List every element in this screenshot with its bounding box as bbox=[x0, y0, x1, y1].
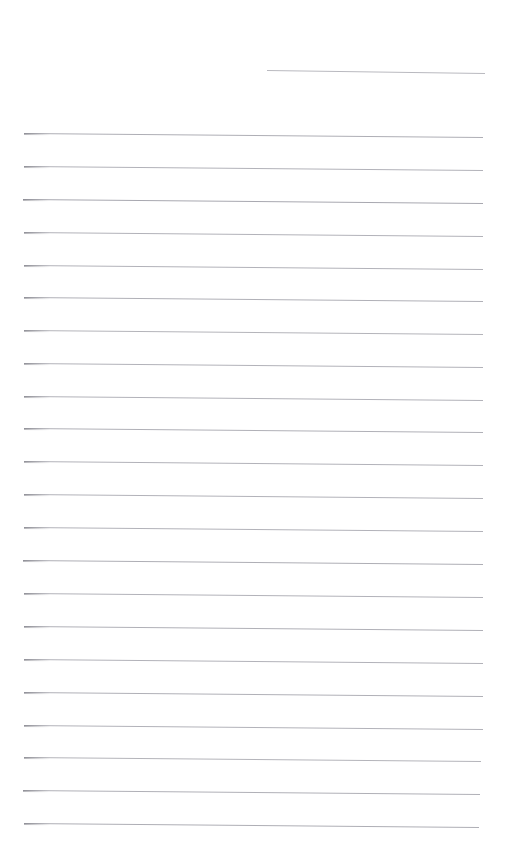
rule-12 bbox=[24, 494, 483, 499]
rule-2 bbox=[24, 166, 483, 171]
rule-9-nib bbox=[24, 396, 50, 398]
rule-4 bbox=[24, 232, 483, 237]
rule-22-nib bbox=[24, 823, 50, 825]
rule-3 bbox=[23, 199, 483, 204]
rule-19 bbox=[24, 725, 483, 730]
rule-17 bbox=[24, 659, 483, 664]
rule-12-nib bbox=[24, 494, 50, 496]
rule-18 bbox=[24, 692, 483, 697]
rule-17-nib bbox=[24, 659, 50, 661]
rule-5 bbox=[24, 265, 483, 270]
rule-7 bbox=[24, 330, 483, 335]
header-rule bbox=[267, 70, 485, 74]
rule-9 bbox=[24, 396, 483, 401]
rule-14-nib bbox=[23, 560, 49, 562]
rule-11-nib bbox=[24, 461, 50, 463]
rule-10-nib bbox=[24, 428, 50, 430]
rule-13 bbox=[24, 527, 483, 532]
rule-5-nib bbox=[24, 265, 50, 267]
rule-18-nib bbox=[24, 692, 50, 694]
rule-21 bbox=[23, 790, 480, 795]
rule-1 bbox=[24, 133, 483, 138]
rule-22 bbox=[24, 823, 479, 828]
rule-8 bbox=[24, 363, 483, 368]
rule-19-nib bbox=[24, 725, 50, 727]
rule-11 bbox=[24, 461, 483, 466]
paper-page bbox=[0, 0, 505, 857]
rule-4-nib bbox=[24, 232, 50, 234]
rule-15 bbox=[24, 593, 483, 598]
rule-10 bbox=[24, 428, 483, 433]
rule-21-nib bbox=[23, 790, 49, 792]
rule-14 bbox=[23, 560, 483, 565]
rule-20-nib bbox=[24, 757, 50, 759]
rule-8-nib bbox=[24, 363, 50, 365]
rule-7-nib bbox=[24, 330, 50, 332]
rule-6 bbox=[24, 297, 483, 302]
writing-area[interactable] bbox=[0, 0, 505, 857]
rule-6-nib bbox=[24, 297, 50, 299]
rule-20 bbox=[24, 757, 481, 762]
rule-13-nib bbox=[24, 527, 50, 529]
rule-16 bbox=[24, 626, 483, 631]
rule-3-nib bbox=[23, 199, 49, 201]
rule-15-nib bbox=[24, 593, 50, 595]
rule-2-nib bbox=[24, 166, 50, 168]
rule-16-nib bbox=[24, 626, 50, 628]
rule-1-nib bbox=[24, 133, 50, 135]
